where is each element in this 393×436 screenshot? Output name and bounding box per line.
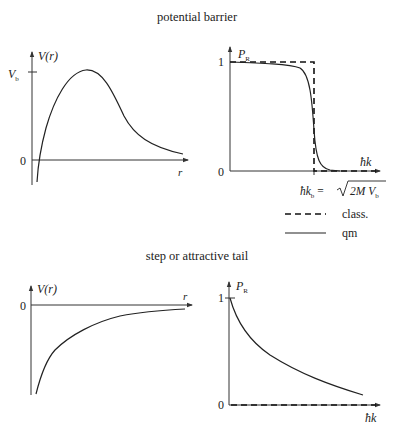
y-axis-label: V(r) <box>38 49 58 63</box>
zero-tick-label: 0 <box>218 398 224 412</box>
x-axis-label: ħk <box>365 411 377 425</box>
plot-barrier-reflection: PR 1 0 ħk ħkb= 2M Vb <box>218 47 386 200</box>
vb-tick-label: Vb <box>8 67 19 83</box>
x-axis-label: r <box>178 166 183 178</box>
y-axis-label: PR <box>237 47 250 63</box>
attractive-potential-curve <box>36 309 185 394</box>
barrier-potential-curve <box>37 70 183 182</box>
zero-tick-label: 0 <box>218 165 224 179</box>
zero-tick-label: 0 <box>20 154 26 168</box>
y-axis-label: V(r) <box>37 282 57 296</box>
y-axis-label: PR <box>235 279 248 295</box>
one-tick-label: 1 <box>218 291 224 305</box>
quantum-curve <box>230 62 340 171</box>
one-tick-label: 1 <box>218 55 224 69</box>
threshold-root-label: 2M Vb <box>350 185 379 200</box>
section-title-step-tail: step or attractive tail <box>146 249 249 263</box>
figure: potential barrier V(r) Vb 0 r PR 1 0 ħk … <box>0 0 393 436</box>
classical-curve <box>230 62 376 171</box>
legend-label-qm: qm <box>342 226 358 240</box>
legend: class. qm <box>285 207 368 240</box>
plot-attractive-potential: V(r) 0 r <box>20 282 192 395</box>
plot-attractive-reflection: PR 1 0 ħk <box>218 279 380 425</box>
quantum-curve <box>230 298 363 395</box>
legend-label-classical: class. <box>342 207 368 221</box>
x-axis-label: ħk <box>360 155 372 169</box>
plot-barrier-potential: V(r) Vb 0 r <box>8 49 188 185</box>
section-title-potential-barrier: potential barrier <box>157 10 238 24</box>
threshold-label: ħkb= <box>300 185 324 200</box>
zero-tick-label: 0 <box>20 299 26 313</box>
x-axis-label: r <box>183 290 188 302</box>
